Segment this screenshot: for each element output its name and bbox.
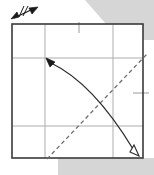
diagram-canvas: [0, 0, 154, 175]
paper-fill: [12, 24, 143, 158]
shadow-bottom: [58, 158, 154, 175]
origami-diagram-figure: Origami fold step diagram: [0, 0, 154, 175]
